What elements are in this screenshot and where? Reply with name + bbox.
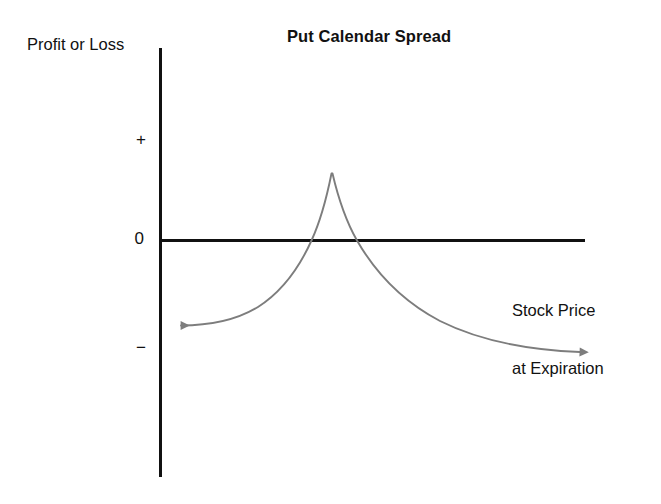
- chart-title: Put Calendar Spread: [287, 27, 451, 46]
- y-tick-label-zero: 0: [118, 229, 144, 249]
- x-axis-title: Stock Price at Expiration: [512, 262, 604, 418]
- x-axis-title-line-1: Stock Price: [512, 301, 604, 320]
- payoff-curve-left-wing: [181, 174, 332, 326]
- y-axis-title: Profit or Loss: [27, 35, 124, 54]
- x-axis-title-line-2: at Expiration: [512, 359, 604, 378]
- y-tick-label-negative: −: [120, 338, 146, 358]
- chart-figure: Put Calendar Spread Profit or Loss + 0 −…: [0, 0, 661, 504]
- chart-plot-area: [0, 0, 661, 504]
- y-tick-label-positive: +: [120, 130, 146, 150]
